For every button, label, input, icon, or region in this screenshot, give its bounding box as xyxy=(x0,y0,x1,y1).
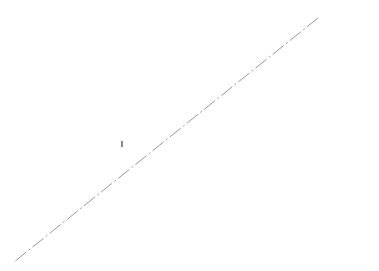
coil-drawing xyxy=(0,0,379,271)
rotation-axis xyxy=(14,18,318,262)
